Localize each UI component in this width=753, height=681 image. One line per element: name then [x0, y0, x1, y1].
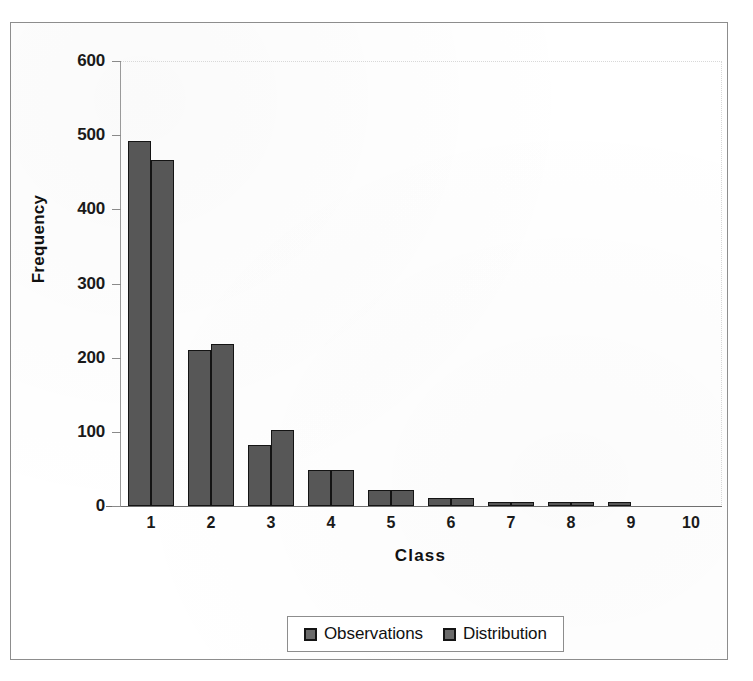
x-axis-title: Class: [120, 546, 721, 566]
bar-distribution-class-7: [511, 502, 534, 506]
legend-swatch-icon: [304, 628, 317, 641]
x-axis-tick-label-1: 1: [121, 514, 181, 532]
x-axis-tick-label-8: 8: [541, 514, 601, 532]
y-axis-tick-label-text: 500: [53, 126, 105, 143]
bar-distribution-class-6: [451, 498, 474, 506]
y-axis-tick: [112, 61, 121, 62]
y-axis-tick-label: 200: [39, 349, 105, 367]
x-axis-tick-label-9: 9: [601, 514, 661, 532]
chart-legend: ObservationsDistribution: [287, 616, 564, 652]
y-axis-tick-label: 100: [39, 423, 105, 441]
bar-observations-class-4: [308, 470, 331, 506]
x-axis-line: [106, 506, 722, 507]
bar-distribution-class-4: [331, 470, 354, 506]
bar-observations-class-8: [548, 502, 571, 506]
bar-observations-class-3: [248, 445, 271, 506]
bar-observations-class-5: [368, 490, 391, 506]
x-axis-tick-label-7: 7: [481, 514, 541, 532]
y-axis-tick-label-text: 600: [53, 52, 105, 69]
legend-item-observations: Observations: [304, 624, 423, 644]
legend-swatch-icon: [443, 628, 456, 641]
y-axis-tick-label: 600: [39, 52, 105, 70]
x-axis-tick-label-5: 5: [361, 514, 421, 532]
y-axis-tick-label: 0: [39, 497, 105, 515]
legend-label: Distribution: [463, 624, 547, 644]
bar-distribution-class-5: [391, 490, 414, 506]
legend-label: Observations: [324, 624, 423, 644]
bar-observations-class-6: [428, 498, 451, 506]
y-axis-tick: [112, 506, 121, 507]
bar-observations-class-7: [488, 502, 511, 506]
y-axis-title: Frequency: [29, 149, 49, 329]
y-axis-tick: [112, 432, 121, 433]
x-axis-tick-label-10: 10: [661, 514, 721, 532]
y-axis-tick-label-text: 400: [53, 200, 105, 217]
y-axis-tick-label: 500: [39, 126, 105, 144]
bar-distribution-class-1: [151, 160, 174, 506]
x-axis-tick-label-6: 6: [421, 514, 481, 532]
x-axis-tick-label-2: 2: [181, 514, 241, 532]
x-axis-tick-label-4: 4: [301, 514, 361, 532]
y-axis-tick-label-text: 300: [53, 275, 105, 292]
chart-figure-frame: 0100200300400500600 Frequency 1234567891…: [10, 22, 728, 660]
y-axis-tick-label-text: 0: [53, 497, 105, 514]
y-axis-tick: [112, 358, 121, 359]
bar-distribution-class-8: [571, 502, 594, 506]
y-axis-tick: [112, 284, 121, 285]
bar-observations-class-2: [188, 350, 211, 506]
y-axis-tick-label-text: 100: [53, 423, 105, 440]
legend-item-distribution: Distribution: [443, 624, 547, 644]
y-axis-tick: [112, 209, 121, 210]
y-axis-tick: [112, 135, 121, 136]
y-axis-tick-label-text: 200: [53, 349, 105, 366]
x-axis-tick-label-3: 3: [241, 514, 301, 532]
bar-observations-class-1: [128, 141, 151, 506]
bar-distribution-class-2: [211, 344, 234, 506]
bar-distribution-class-3: [271, 430, 294, 506]
bar-observations-class-9: [608, 502, 631, 506]
